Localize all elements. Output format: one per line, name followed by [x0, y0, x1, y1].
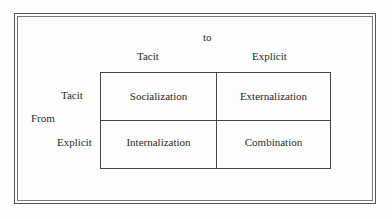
row-header-explicit: Explicit	[57, 136, 92, 149]
cell-externalization: Externalization	[217, 90, 330, 103]
from-axis-label: From	[31, 112, 55, 125]
column-header-explicit: Explicit	[252, 50, 287, 63]
matrix-horizontal-divider	[101, 120, 330, 121]
cell-combination: Combination	[217, 136, 330, 149]
cell-internalization: Internalization	[101, 136, 216, 149]
row-header-tacit: Tacit	[61, 89, 83, 102]
cell-socialization: Socialization	[101, 90, 216, 103]
to-axis-label: to	[203, 31, 212, 44]
seci-matrix: Socialization Externalization Internaliz…	[100, 72, 331, 169]
column-header-tacit: Tacit	[137, 50, 159, 63]
